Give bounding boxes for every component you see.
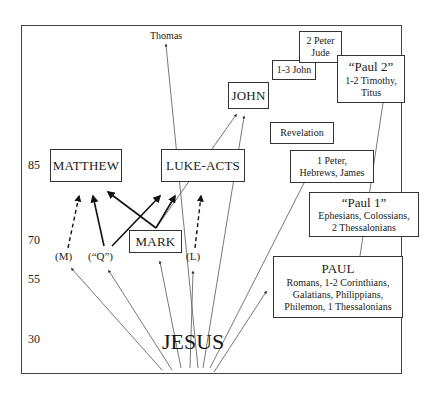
jesus-label: JESUS [162,329,224,355]
paul1-title: “Paul 1” [342,195,386,211]
year-55: 55 [28,272,40,287]
revelation-box: Revelation [270,122,334,144]
luke-acts-box: LUKE-ACTS [161,149,245,182]
paul-title: PAUL [322,261,355,277]
paul2-box: “Paul 2” 1-2 Timothy, Titus [337,55,405,103]
paul-line2: Galatians, Philippians, [293,289,383,301]
peter2-jude-box: 2 Peter Jude [299,31,342,63]
year-85: 85 [28,158,40,173]
paul1-line1: Ephesians, Colossians, [318,210,409,222]
thomas-label: Thomas [150,30,182,41]
paul2-line2: Titus [361,87,381,99]
john-box: JOHN [228,82,269,109]
peter1-line2: Hebrews, James [300,167,365,179]
source-l: (L) [186,250,200,262]
paul-box: PAUL Romans, 1-2 Corinthians, Galatians,… [273,256,403,318]
john-letters-box: 1-3 John [272,60,316,80]
paul1-box: “Paul 1” Ephesians, Colossians, 2 Thessa… [309,192,419,237]
peter2-label: 2 Peter [306,35,334,47]
year-30: 30 [28,332,40,347]
source-m: (M) [55,250,72,262]
paul-line3: Philemon, 1 Thessalonians [284,301,391,313]
paul1-line2: 2 Thessalonians [332,222,396,234]
paul2-title: “Paul 2” [349,59,393,75]
paul2-line1: 1-2 Timothy, [345,75,397,87]
mark-box: MARK [129,230,182,253]
year-70: 70 [28,233,40,248]
peter1-line1: 1 Peter, [317,155,347,167]
source-q: (“Q”) [88,250,113,262]
matthew-box: MATTHEW [50,149,122,182]
paul-line1: Romans, 1-2 Corinthians, [287,277,390,289]
jude-label: Jude [311,47,329,59]
peter1-hebrews-james-box: 1 Peter, Hebrews, James [290,150,374,183]
